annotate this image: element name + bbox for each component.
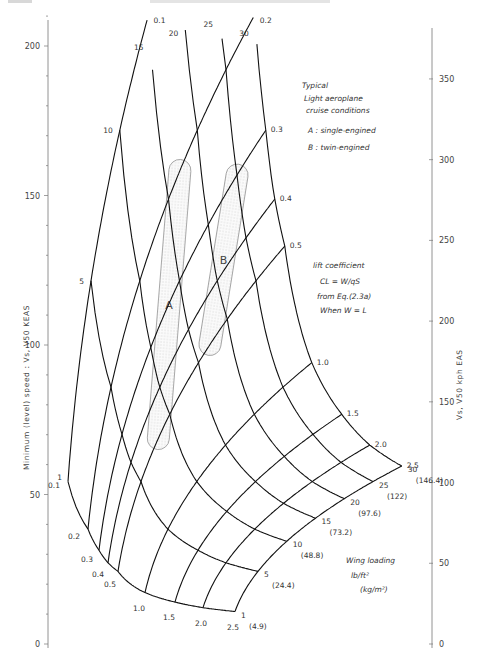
wing-loading-label-top: 5 [79, 277, 84, 286]
cl-label-bottom: 2.0 [195, 619, 207, 628]
wing-loading-label: 1 [241, 611, 246, 620]
cl-note-line-1: lift coefficient [313, 261, 366, 270]
cl-label-bottom: 0.2 [68, 532, 80, 541]
region-B: B [197, 163, 249, 358]
wing-loading-label-top: 25 [203, 20, 213, 29]
wing-loading-metric-label: (122) [387, 492, 407, 501]
wing-loading-metric-label: (4.9) [249, 622, 267, 631]
wing-loading-metric-label: (48.8) [301, 551, 324, 560]
wing-loading-label: 25 [379, 481, 389, 490]
wing-loading-label: 10 [293, 540, 303, 549]
wing-loading-metric-label: (97.6) [358, 509, 381, 518]
wing-loading-label-top: 30 [239, 29, 249, 38]
legend-entry-b: B : twin-engined [308, 143, 370, 152]
cl-label-bottom: 0.5 [104, 580, 116, 589]
right-axis-tick-label: 350 [439, 75, 454, 84]
wing-loading-label-top: 10 [103, 126, 113, 135]
wing-loading-label: 20 [350, 498, 360, 507]
nomogram-chart: 050100150200 050100150200250300350 AB 0.… [0, 0, 479, 657]
cl-note-line-2: CL = W/qS [320, 277, 360, 286]
cl-label-top: 1.5 [347, 409, 359, 418]
left-axis-title: Minimum (level) speed : Vs, V50 KEAS [22, 305, 31, 470]
cl-label-top: 0.3 [271, 125, 283, 134]
wing-loading-metric-label: (73.2) [330, 528, 353, 537]
cl-label-bottom: 0.1 [48, 481, 60, 490]
cl-label-bottom: 1.5 [163, 613, 175, 622]
wing-loading-metric-label: (146.4) [416, 476, 443, 485]
cl-label-bottom: 1.0 [133, 604, 145, 613]
wing-loading-note: Wing loading lb/ft² (kg/m²) [346, 556, 395, 594]
cl-label-apex: 0.1 [154, 16, 166, 25]
right-axis-tick-label: 50 [439, 559, 449, 568]
legend-title-line-1: Typical [302, 81, 329, 90]
wing-loading-label-top: 1 [57, 473, 62, 482]
left-axis-tick-label: 0 [35, 640, 40, 649]
wing-loading-label-top: 20 [169, 29, 179, 38]
wl-note-line-2: lb/ft² [351, 571, 369, 580]
region-B-label: B [220, 254, 228, 267]
lift-coefficient-note: lift coefficient CL = W/qS from Eq.(2.3a… [313, 261, 371, 315]
legend-title-line-2: Light aeroplane [304, 94, 363, 103]
wing-loading-metric-label: (24.4) [272, 581, 295, 590]
legend: Typical Light aeroplane cruise condition… [302, 81, 376, 152]
legend-title-line-3: cruise conditions [306, 106, 370, 115]
cl-label-bottom: 2.5 [227, 623, 239, 632]
wing-loading-curve-1 [68, 482, 235, 612]
cl-label-bottom: 0.3 [81, 555, 93, 564]
cl-note-line-3: from Eq.(2.3a) [317, 292, 371, 301]
cl-label-top: 0.5 [290, 241, 302, 250]
right-axis-tick-label: 150 [439, 398, 454, 407]
wing-loading-label: 30 [408, 465, 418, 474]
wl-note-line-1: Wing loading [346, 556, 395, 565]
cl-label-top: 2.0 [375, 440, 387, 449]
wing-loading-curves [68, 30, 402, 612]
right-axis-tick-label: 0 [439, 640, 444, 649]
right-axis-tick-label: 200 [439, 317, 454, 326]
cl-line-0-1 [68, 20, 147, 482]
cl-line-1-5 [175, 414, 342, 602]
left-axis-tick-label: 200 [25, 42, 40, 51]
cl-label-apex: 0.2 [260, 16, 272, 25]
right-axis-tick-label: 300 [439, 156, 454, 165]
cl-label-top: 1.0 [317, 358, 329, 367]
wl-note-line-3: (kg/m²) [360, 585, 388, 594]
cl-label-top: 0.4 [280, 194, 292, 203]
cruise-regions: AB [146, 159, 249, 451]
cl-note-line-4: When W = L [320, 306, 367, 315]
right-axis-tick-label: 250 [439, 236, 454, 245]
wing-loading-label: 15 [322, 517, 332, 526]
right-axis: 050100150200250300350 [429, 28, 454, 649]
wing-loading-label: 5 [264, 570, 269, 579]
cl-label-bottom: 0.4 [92, 570, 104, 579]
left-axis-tick-label: 50 [30, 491, 40, 500]
left-axis-tick-label: 150 [25, 192, 40, 201]
right-axis-title: Vs, V50 kph EAS [455, 349, 464, 420]
legend-entry-a: A : single-engined [307, 126, 376, 135]
wing-loading-label-top: 15 [134, 43, 144, 52]
